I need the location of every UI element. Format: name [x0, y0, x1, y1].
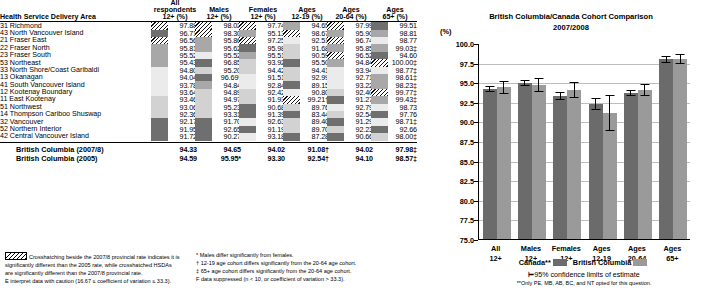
y-tick-mark	[474, 220, 478, 221]
error-bar-cap-top	[499, 81, 508, 82]
y-tick-mark	[474, 83, 478, 84]
y-tick-label: 87.5	[434, 138, 474, 147]
error-bar-line	[609, 95, 610, 131]
summary-cell: 94.33	[153, 143, 197, 153]
error-bar-cap-bottom	[626, 95, 635, 96]
y-tick-label: 77.5	[434, 216, 474, 225]
legend-label-bc: British Columbia	[573, 258, 631, 267]
bar-canada	[518, 83, 532, 239]
shade-swatch	[239, 96, 256, 103]
error-bar	[640, 84, 649, 96]
error-bar	[626, 90, 635, 96]
y-tick-mark	[474, 44, 478, 45]
error-bar-cap-bottom	[485, 91, 494, 92]
bar-canada	[624, 93, 638, 239]
footnote-dagger: † 12-19 age cohort differs significantly…	[196, 260, 396, 268]
shade-swatch	[371, 30, 388, 37]
shade-swatch	[327, 133, 344, 140]
error-bar-cap-bottom	[676, 63, 685, 64]
error-bar-line	[574, 82, 575, 98]
error-bar-cap-bottom	[570, 97, 579, 98]
footnote-doubledagger: ‡ 65+ age cohort differs significantly f…	[196, 268, 396, 276]
summary-value: 94.33	[170, 146, 197, 153]
shade-swatch	[283, 89, 300, 96]
chart-title-line1: British Columbia/Canada Cohort Compariso…	[489, 12, 653, 21]
shade-swatch	[283, 104, 300, 111]
shade-swatch	[195, 104, 212, 111]
y-tick-label: 80.0	[434, 197, 474, 206]
shade-swatch	[327, 44, 344, 51]
summary-cell: 94.59	[153, 153, 197, 162]
shade-swatch	[283, 111, 300, 118]
y-tick-mark	[474, 103, 478, 104]
shade-swatch	[151, 118, 168, 125]
shade-swatch	[283, 37, 300, 44]
data-cell: 91.72	[153, 133, 197, 142]
error-bar-line	[538, 78, 539, 91]
footnote-males: * Males differ significantly from female…	[196, 252, 396, 260]
shade-swatch	[195, 52, 212, 59]
error-bar-cap-top	[556, 92, 565, 93]
data-value: 93.18	[258, 133, 285, 140]
shade-swatch	[371, 67, 388, 74]
table-row: 23 Fraser South95.5295.5295.5190.5996.52…	[0, 52, 417, 59]
summary-value: 94.65	[214, 146, 241, 153]
table-row: 33 North Shore/Coast Garibaldi94.8095.20…	[0, 67, 417, 74]
summary-cell: 93.30	[241, 153, 285, 162]
shade-swatch	[195, 67, 212, 74]
shade-swatch	[283, 81, 300, 88]
error-bar	[605, 95, 614, 131]
y-tick-label: 100.0	[434, 40, 474, 49]
shade-swatch	[239, 59, 256, 66]
shade-swatch	[371, 96, 388, 103]
shade-swatch	[195, 59, 212, 66]
error-bar-cap-top	[520, 80, 529, 81]
summary-value: 94.02	[346, 146, 373, 153]
footnotes-right: * Males differ significantly from female…	[196, 252, 396, 284]
data-cell: 90.66	[329, 133, 373, 142]
shade-swatch	[239, 89, 256, 96]
error-bar	[676, 54, 685, 64]
shade-swatch	[327, 30, 344, 37]
shade-swatch	[327, 89, 344, 96]
shade-swatch	[327, 74, 344, 81]
error-bar-cap-bottom	[605, 130, 614, 131]
summary-value: 92.54†	[302, 155, 329, 162]
shade-swatch	[371, 104, 388, 111]
footnote-crosshatch-line3: are significantly different than the 200…	[5, 270, 191, 278]
table-row: 32 Vancouver92.1791.7092.6389.4091.2998.…	[0, 118, 417, 125]
chart-footnote: **Only PE, MB, AB, BC, and NT opted for …	[460, 280, 707, 286]
shade-swatch	[371, 133, 388, 140]
data-value: 90.27	[214, 133, 241, 140]
y-tick-label: 95.0	[434, 79, 474, 88]
column-header-ages2064-line1: Ages	[329, 0, 373, 14]
bar-group	[479, 44, 514, 239]
shade-swatch	[151, 30, 168, 37]
error-bar-cap-bottom	[640, 95, 649, 96]
summary-cell: 94.02	[241, 143, 285, 153]
error-bar-cap-bottom	[662, 62, 671, 63]
crosshatch-swatch	[239, 37, 256, 44]
error-bar-cap-bottom	[591, 109, 600, 110]
shade-swatch	[195, 96, 212, 103]
error-bar-cap-bottom	[556, 99, 565, 100]
table-header-row-2: Health Service Delivery Area 12+ (%) 12+…	[0, 14, 417, 22]
legend-swatch-canada	[553, 259, 567, 267]
shade-swatch	[151, 89, 168, 96]
bar-group	[620, 44, 655, 239]
y-tick-mark	[474, 201, 478, 202]
footnotes-left: Crosshatching beside the 2007/8 provinci…	[5, 252, 191, 286]
y-tick-mark	[474, 122, 478, 123]
error-bar-cap-top	[676, 54, 685, 55]
bar-british-columbia	[567, 90, 581, 239]
page-root: All respondents Males Females Ages Ages …	[0, 0, 707, 295]
bar-british-columbia	[532, 85, 546, 239]
table-row: 42 Central Vancouver Island91.7290.2793.…	[0, 133, 417, 142]
shade-swatch	[239, 118, 256, 125]
summary-cell: 94.10	[329, 153, 373, 162]
shade-swatch	[151, 59, 168, 66]
shade-swatch	[151, 126, 168, 133]
shade-swatch	[239, 104, 256, 111]
chart-y-axis-label: (%)	[440, 27, 452, 36]
table-header-row-1: All respondents Males Females Ages Ages …	[0, 0, 417, 14]
